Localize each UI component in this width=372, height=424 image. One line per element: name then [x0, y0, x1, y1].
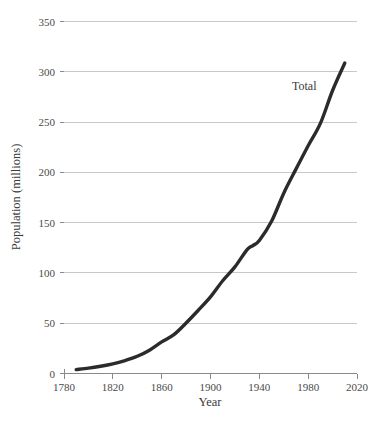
ytick-label-350: 350 [39, 16, 56, 28]
x-axis-tick-marks [64, 374, 357, 379]
xtick-label-2020: 2020 [346, 381, 369, 393]
xtick-label-1820: 1820 [102, 381, 125, 393]
series-annotation-total: Total [292, 79, 317, 93]
ytick-label-150: 150 [39, 217, 56, 229]
ytick-label-0: 0 [50, 368, 56, 380]
x-axis-title: Year [198, 395, 222, 409]
xtick-label-1940: 1940 [248, 381, 271, 393]
y-axis-title: Population (millions) [9, 144, 23, 251]
x-axis-tick-labels: 1780 1820 1860 1900 1940 1980 2020 [53, 381, 369, 393]
xtick-label-1900: 1900 [200, 381, 223, 393]
gridlines-group [64, 22, 357, 324]
ytick-label-50: 50 [44, 317, 56, 329]
ytick-label-200: 200 [39, 166, 56, 178]
xtick-label-1980: 1980 [297, 381, 320, 393]
ytick-label-100: 100 [39, 267, 56, 279]
ytick-label-250: 250 [39, 116, 56, 128]
chart-canvas: 350 300 250 200 150 100 50 0 1780 1820 1… [0, 0, 372, 424]
xtick-label-1780: 1780 [53, 381, 76, 393]
ytick-label-300: 300 [39, 66, 56, 78]
y-axis-tick-marks [60, 22, 64, 374]
population-line-chart: 350 300 250 200 150 100 50 0 1780 1820 1… [0, 0, 372, 424]
xtick-label-1860: 1860 [151, 381, 174, 393]
y-axis-tick-labels: 350 300 250 200 150 100 50 0 [39, 16, 56, 380]
